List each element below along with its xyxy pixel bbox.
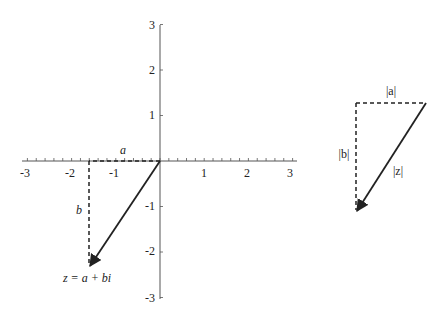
label-a: a <box>120 143 126 157</box>
modulus-arrow <box>357 103 426 211</box>
y-tick-label: -1 <box>145 199 155 213</box>
magnitude-triangle: |a| |b| |z| <box>339 84 426 211</box>
label-abs-a: |a| <box>386 84 396 98</box>
label-b: b <box>76 203 82 217</box>
y-tick-label: 1 <box>149 108 155 122</box>
x-tick-label: 3 <box>287 166 293 180</box>
x-tick-label: -1 <box>109 166 119 180</box>
x-tick-label: -3 <box>20 166 30 180</box>
x-tick-labels: -3 -2 -1 1 2 3 <box>20 166 293 180</box>
label-z: z = a + bi <box>62 271 111 285</box>
y-tick-label: 3 <box>149 18 155 32</box>
complex-plane-diagram: -3 -2 -1 1 2 3 3 2 1 -1 -2 -3 a b z = a … <box>0 0 443 317</box>
label-abs-z: |z| <box>393 164 403 178</box>
y-tick-label: -3 <box>145 291 155 305</box>
x-tick-label: 2 <box>244 166 250 180</box>
label-abs-b: |b| <box>339 147 350 161</box>
x-tick-label: -2 <box>65 166 75 180</box>
x-tick-label: 1 <box>201 166 207 180</box>
y-tick-label: 2 <box>149 63 155 77</box>
y-tick-label: -2 <box>145 244 155 258</box>
